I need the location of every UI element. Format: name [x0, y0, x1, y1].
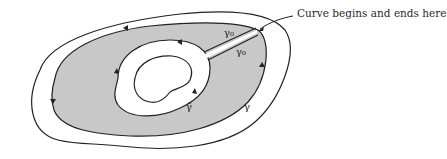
annotation-text: Curve begins and ends here: [297, 7, 447, 19]
label-gamma: γ: [244, 101, 250, 112]
label-gamma0-bottom: γ₀: [236, 46, 246, 57]
label-gamma-tilde: γ̃: [186, 101, 192, 112]
label-gamma0-top: γ₀: [224, 27, 234, 38]
